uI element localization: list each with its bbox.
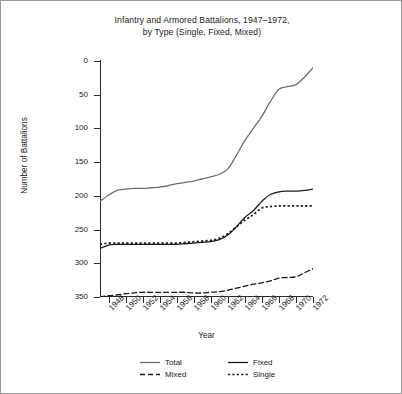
legend-item-total: Total bbox=[140, 358, 228, 367]
legend-key-single-icon bbox=[228, 370, 248, 379]
chart-title-line-1: Infantry and Armored Battalions, 1947–19… bbox=[1, 15, 402, 27]
legend-row: Total Fixed bbox=[140, 356, 320, 368]
y-axis-tick-label: 250 bbox=[48, 225, 88, 234]
y-axis-tick-label: 0 bbox=[48, 56, 88, 65]
chart-figure: Infantry and Armored Battalions, 1947–19… bbox=[0, 0, 402, 394]
legend-label-single: Single bbox=[253, 370, 275, 379]
legend-key-mixed-icon bbox=[140, 370, 160, 379]
legend-item-single: Single bbox=[228, 370, 316, 379]
x-axis-title: Year bbox=[100, 331, 313, 340]
legend-label-fixed: Fixed bbox=[253, 358, 273, 367]
legend-key-fixed-icon bbox=[228, 358, 248, 367]
y-axis-tick-label: 300 bbox=[48, 258, 88, 267]
legend-item-fixed: Fixed bbox=[228, 358, 316, 367]
y-axis-title: Number of Battalions bbox=[20, 86, 29, 226]
legend-label-mixed: Mixed bbox=[165, 370, 186, 379]
series-line-single bbox=[100, 206, 313, 244]
plot-area bbox=[100, 61, 313, 297]
y-axis-tick-label: 150 bbox=[48, 157, 88, 166]
series-line-fixed bbox=[100, 189, 313, 248]
legend-item-mixed: Mixed bbox=[140, 370, 228, 379]
chart-legend: Total Fixed Mixed Single bbox=[140, 356, 320, 380]
y-axis-tick-label: 350 bbox=[48, 292, 88, 301]
series-lines bbox=[100, 61, 313, 297]
chart-title-line-2: by Type (Single, Fixed, Mixed) bbox=[1, 27, 402, 39]
series-line-total bbox=[100, 68, 313, 202]
y-axis-tick-label: 200 bbox=[48, 191, 88, 200]
legend-label-total: Total bbox=[165, 358, 182, 367]
y-axis-tick-label: 100 bbox=[48, 123, 88, 132]
y-axis-tick bbox=[94, 297, 100, 298]
series-line-mixed bbox=[100, 269, 313, 297]
legend-key-total-icon bbox=[140, 358, 160, 367]
chart-title: Infantry and Armored Battalions, 1947–19… bbox=[1, 15, 402, 38]
y-axis-tick-label: 50 bbox=[48, 90, 88, 99]
legend-row: Mixed Single bbox=[140, 368, 320, 380]
